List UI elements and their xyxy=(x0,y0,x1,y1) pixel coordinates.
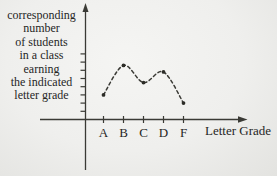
x-axis-arrowhead xyxy=(238,116,248,122)
chart-canvas: A B C D F Letter Grade xyxy=(0,0,277,176)
x-axis-title: Letter Grade xyxy=(205,123,271,138)
hand-drawn-grade-chart-figure: corresponding number of students in a cl… xyxy=(0,0,277,176)
y-axis-arrowhead xyxy=(83,3,89,12)
data-point-a xyxy=(102,93,106,97)
data-point-f xyxy=(182,101,186,105)
x-tick-label-f: F xyxy=(180,125,187,140)
x-tick-label-a: A xyxy=(99,125,109,140)
data-point-b xyxy=(122,63,126,67)
data-point-d xyxy=(162,70,166,74)
chart-drawing xyxy=(40,3,248,170)
x-tick-label-c: C xyxy=(139,125,148,140)
x-tick-label-d: D xyxy=(159,125,168,140)
x-tick-label-b: B xyxy=(119,125,128,140)
data-point-c xyxy=(142,81,146,85)
